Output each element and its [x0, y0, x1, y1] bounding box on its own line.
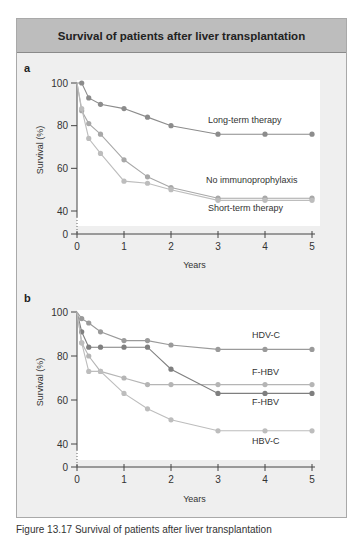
data-point — [121, 106, 126, 111]
data-point — [215, 382, 220, 387]
data-point — [98, 132, 103, 137]
x-axis-label: Years — [183, 494, 206, 504]
data-point — [86, 121, 91, 126]
series-label: F-HBV — [252, 367, 279, 377]
data-point — [145, 181, 150, 186]
data-point — [86, 320, 91, 325]
data-point — [145, 382, 150, 387]
y-axis-label: Survival (%) — [35, 358, 45, 407]
panel-label: a — [24, 62, 31, 74]
data-point — [86, 95, 91, 100]
data-point — [121, 345, 126, 350]
data-point — [215, 347, 220, 352]
y-tick-label: 0 — [62, 229, 68, 240]
data-point — [309, 347, 314, 352]
y-axis-label: Survival (%) — [35, 126, 45, 175]
x-axis-label: Years — [183, 260, 206, 270]
data-point — [121, 391, 126, 396]
data-point — [262, 428, 267, 433]
plot-area — [77, 80, 320, 226]
x-tick-label: 2 — [168, 241, 174, 252]
data-point — [145, 174, 150, 179]
data-point — [79, 340, 84, 345]
series-label: HDV-C — [252, 330, 281, 340]
y-tick-label: 60 — [57, 163, 69, 174]
data-point — [168, 187, 173, 192]
data-point — [309, 391, 314, 396]
data-point — [262, 382, 267, 387]
data-point — [262, 132, 267, 137]
series-label: No immunoprophylaxis — [206, 175, 298, 185]
y-tick-label: 0 — [62, 462, 68, 473]
data-point — [309, 132, 314, 137]
data-point — [121, 179, 126, 184]
data-point — [98, 329, 103, 334]
chart-panel-a: a1008060400012345YearsSurvival (%)Long-t… — [24, 62, 320, 270]
x-tick-label: 3 — [215, 241, 221, 252]
data-point — [145, 338, 150, 343]
x-tick-label: 4 — [262, 241, 268, 252]
data-point — [145, 406, 150, 411]
x-tick-label: 4 — [262, 474, 268, 485]
data-point — [86, 345, 91, 350]
data-point — [168, 382, 173, 387]
data-point — [79, 316, 84, 321]
panel-label: b — [24, 292, 31, 304]
series-label: F-HBV — [252, 397, 279, 407]
data-point — [79, 106, 84, 111]
y-tick-label: 80 — [57, 351, 69, 362]
y-tick-label: 100 — [51, 307, 68, 318]
series-label: HBV-C — [252, 436, 280, 446]
data-point — [98, 151, 103, 156]
data-point — [98, 102, 103, 107]
y-tick-label: 60 — [57, 395, 69, 406]
x-tick-label: 0 — [74, 241, 80, 252]
data-point — [309, 428, 314, 433]
data-point — [86, 136, 91, 141]
y-tick-label: 40 — [57, 206, 69, 217]
data-point — [121, 375, 126, 380]
data-point — [215, 391, 220, 396]
data-point — [145, 345, 150, 350]
data-point — [86, 369, 91, 374]
data-point — [86, 353, 91, 358]
data-point — [168, 342, 173, 347]
x-tick-label: 2 — [168, 474, 174, 485]
data-point — [145, 115, 150, 120]
data-point — [215, 428, 220, 433]
x-tick-label: 5 — [309, 241, 315, 252]
chart-panel-b: b1008060400012345YearsSurvival (%)HDV-CF… — [24, 292, 320, 504]
data-point — [262, 347, 267, 352]
data-point — [262, 391, 267, 396]
data-point — [79, 80, 84, 85]
figure-caption: Figure 13.17 Survival of patients after … — [16, 524, 272, 535]
series-label: Short-term therapy — [208, 203, 284, 213]
x-tick-label: 3 — [215, 474, 221, 485]
data-point — [309, 382, 314, 387]
x-tick-label: 1 — [121, 474, 127, 485]
data-point — [98, 369, 103, 374]
data-point — [309, 198, 314, 203]
data-point — [98, 345, 103, 350]
y-tick-label: 100 — [51, 78, 68, 89]
x-tick-label: 5 — [309, 474, 315, 485]
y-tick-label: 80 — [57, 120, 69, 131]
data-point — [168, 367, 173, 372]
x-tick-label: 0 — [74, 474, 80, 485]
data-point — [215, 132, 220, 137]
data-point — [121, 157, 126, 162]
data-point — [168, 417, 173, 422]
series-label: Long-term therapy — [208, 115, 282, 125]
data-point — [168, 123, 173, 128]
data-point — [121, 338, 126, 343]
x-tick-label: 1 — [121, 241, 127, 252]
y-tick-label: 40 — [57, 439, 69, 450]
